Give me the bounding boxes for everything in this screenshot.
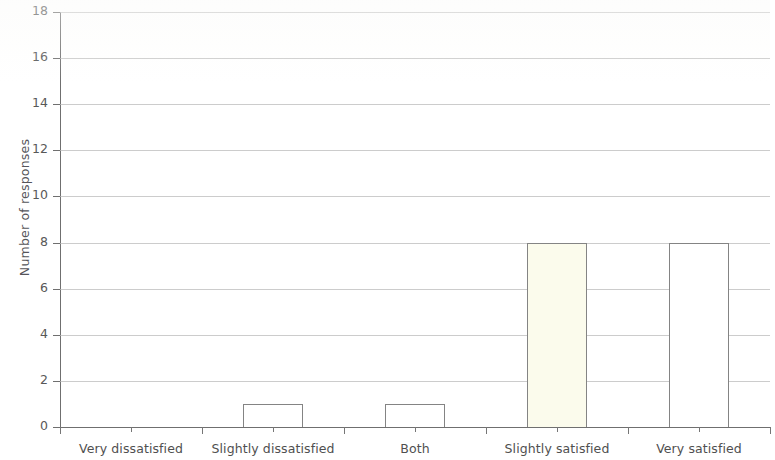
x-tick-label: Very dissatisfied: [51, 441, 211, 456]
x-tick-mark: [486, 427, 487, 434]
y-tick-label: 0: [14, 420, 48, 433]
y-tick-label: 16: [14, 51, 48, 64]
x-tick-label: Slightly satisfied: [477, 441, 637, 456]
y-tick-label: 6: [14, 282, 48, 295]
gridline: [60, 335, 770, 336]
gridline: [60, 289, 770, 290]
gridline: [60, 381, 770, 382]
x-tick-label: Slightly dissatisfied: [193, 441, 353, 456]
y-tick-label: 12: [14, 143, 48, 156]
x-tick-mark-minor: [557, 427, 558, 432]
bar: [527, 243, 587, 427]
x-tick-mark-minor: [699, 427, 700, 432]
gridline: [60, 12, 770, 13]
y-tick-label: 2: [14, 374, 48, 387]
x-tick-mark-minor: [415, 427, 416, 432]
plot-area: [60, 12, 770, 427]
y-tick-label: 8: [14, 236, 48, 249]
x-tick-mark-minor: [131, 427, 132, 432]
gridline: [60, 58, 770, 59]
y-tick-label: 4: [14, 328, 48, 341]
x-tick-mark-minor: [273, 427, 274, 432]
x-tick-mark: [202, 427, 203, 434]
bar: [385, 404, 445, 427]
gridline: [60, 104, 770, 105]
x-tick-label: Very satisfied: [619, 441, 775, 456]
y-tick-label: 18: [14, 5, 48, 18]
x-tick-mark: [344, 427, 345, 434]
gridline: [60, 243, 770, 244]
x-tick-label: Both: [335, 441, 495, 456]
gridline: [60, 196, 770, 197]
y-axis-title: Number of responses: [17, 108, 32, 308]
x-tick-mark: [770, 427, 771, 434]
x-tick-mark: [628, 427, 629, 434]
gridline: [60, 150, 770, 151]
x-tick-mark: [60, 427, 61, 434]
y-tick-label: 10: [14, 189, 48, 202]
bar: [243, 404, 303, 427]
y-tick-label: 14: [14, 97, 48, 110]
bar: [669, 243, 729, 427]
